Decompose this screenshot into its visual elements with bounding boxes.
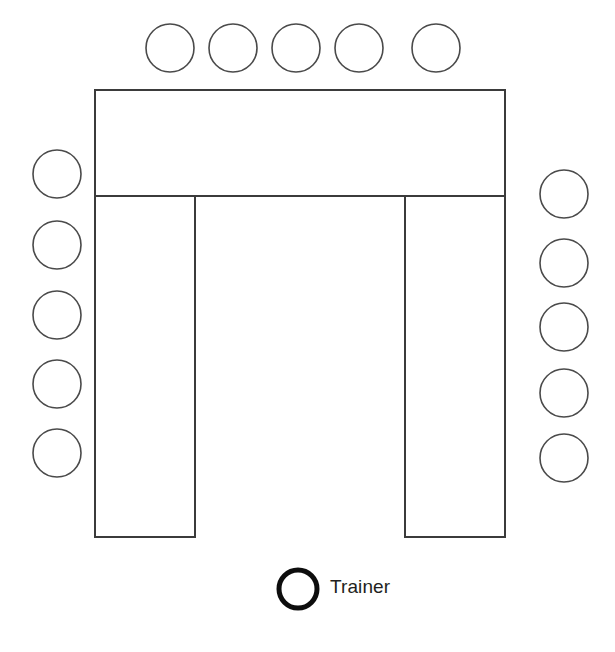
table-outline [95, 90, 505, 537]
seating-chart-diagram: Trainer [0, 0, 615, 652]
seat-circle [540, 239, 588, 287]
seat-row-top [146, 24, 460, 72]
seat-circle [540, 303, 588, 351]
seat-column-left [33, 150, 81, 477]
seat-circle [335, 24, 383, 72]
diagram-canvas [0, 0, 615, 652]
seat-circle [540, 434, 588, 482]
seat-circle [33, 360, 81, 408]
thick-circle-icon [279, 570, 317, 608]
seat-circle [272, 24, 320, 72]
seat-column-right [540, 170, 588, 482]
seat-circle [33, 221, 81, 269]
u-shaped-table [95, 90, 505, 537]
seat-circle [540, 170, 588, 218]
seat-circle [146, 24, 194, 72]
seat-circle [33, 150, 81, 198]
seat-circle [540, 369, 588, 417]
seat-circle [33, 429, 81, 477]
seat-circle [33, 291, 81, 339]
trainer-marker [279, 570, 317, 608]
seat-circle [209, 24, 257, 72]
trainer-legend-label: Trainer [330, 576, 390, 598]
seat-circle [412, 24, 460, 72]
